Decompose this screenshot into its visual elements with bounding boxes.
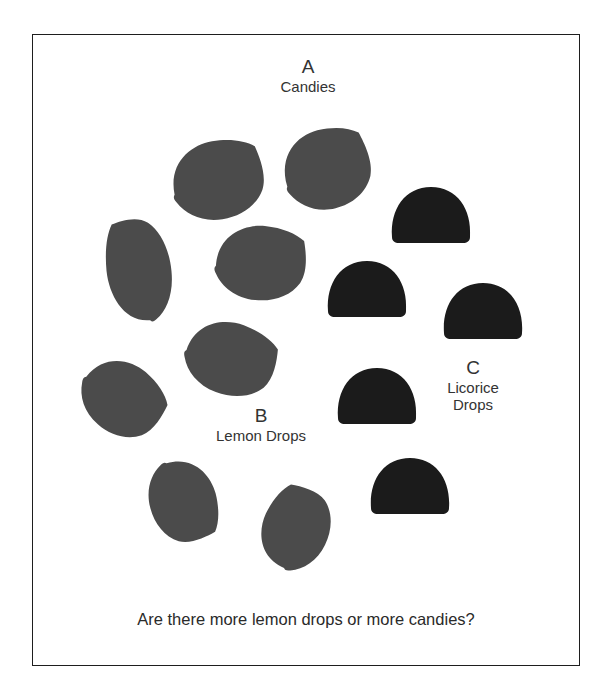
lemon-drop-icon (176, 312, 283, 405)
group-letter-c: C (433, 357, 513, 379)
licorice-drops-group (328, 187, 522, 514)
licorice-drop-icon (444, 283, 522, 339)
label-b-lemon-drops: B Lemon Drops (201, 405, 321, 444)
group-name-drops: Drops (433, 396, 513, 413)
licorice-drop-icon (338, 368, 416, 424)
lemon-drop-icon (162, 130, 272, 230)
lemon-drop-icon (214, 226, 305, 301)
group-name-candies: Candies (258, 78, 358, 95)
group-letter-b: B (201, 405, 321, 427)
lemon-drop-icon (250, 478, 341, 580)
question-text: Are there more lemon drops or more candi… (32, 610, 580, 629)
label-c-licorice-drops: C Licorice Drops (433, 357, 513, 413)
group-name-lemon-drops: Lemon Drops (201, 427, 321, 444)
lemon-drop-icon (137, 450, 228, 552)
lemon-drop-icon (98, 214, 180, 328)
label-a-candies: A Candies (258, 56, 358, 95)
lemon-drop-icon (66, 345, 177, 452)
lemon-drop-icon (271, 116, 382, 222)
lemon-drops-group (66, 116, 382, 579)
group-letter-a: A (258, 56, 358, 78)
candies-illustration (0, 0, 607, 698)
group-name-licorice: Licorice (433, 379, 513, 396)
licorice-drop-icon (328, 261, 406, 317)
licorice-drop-icon (371, 458, 449, 514)
licorice-drop-icon (392, 187, 470, 243)
